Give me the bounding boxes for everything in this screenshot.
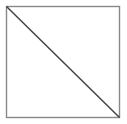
square-with-diagonal-figure (0, 0, 127, 124)
figure-canvas (0, 0, 127, 124)
